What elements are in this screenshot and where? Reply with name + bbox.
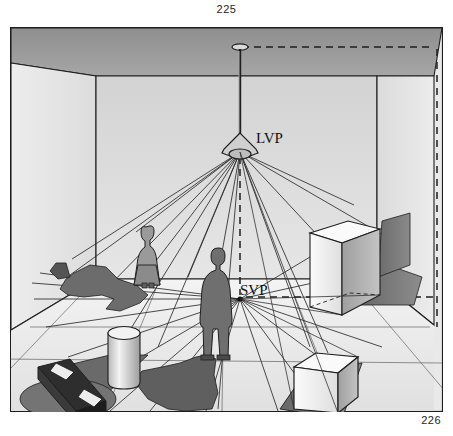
figure-page: 225 xyxy=(0,0,453,436)
cylinder-top xyxy=(108,327,140,340)
cube-front xyxy=(294,367,338,412)
cube xyxy=(294,353,358,412)
cylinder xyxy=(108,327,140,390)
tall-box xyxy=(310,221,380,315)
ceiling-plane xyxy=(11,28,442,76)
tall-box-front xyxy=(310,233,342,315)
figure-number-bottom: 226 xyxy=(0,414,453,426)
svp-label: SVP xyxy=(240,282,268,298)
lamp-bulb xyxy=(229,149,251,159)
perspective-room-diagram: LVP SVP xyxy=(10,27,443,412)
lvp-label: LVP xyxy=(256,130,283,146)
figure-number-top: 225 xyxy=(0,3,453,15)
diagram-canvas: LVP SVP xyxy=(10,27,443,412)
